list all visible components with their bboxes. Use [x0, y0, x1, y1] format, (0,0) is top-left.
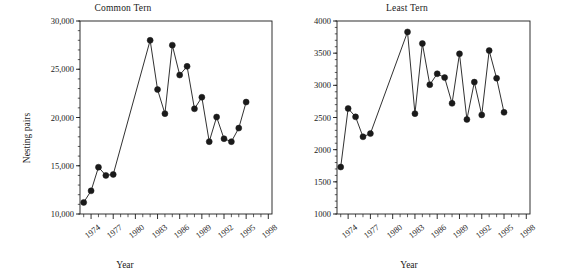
- least-tern-panel: Least Tern Year 100015002000250030003500…: [282, 0, 564, 276]
- y-tick-label: 4000: [314, 16, 331, 26]
- data-point: [338, 164, 344, 170]
- data-point: [345, 105, 351, 111]
- y-tick-label: 2500: [314, 113, 331, 123]
- data-point: [81, 199, 87, 205]
- data-point: [486, 48, 492, 54]
- data-point: [184, 63, 190, 69]
- data-point: [214, 114, 220, 120]
- x-axis-label-year-right: Year: [268, 260, 550, 270]
- data-point: [169, 42, 175, 48]
- data-point: [464, 116, 470, 122]
- data-point: [479, 112, 485, 118]
- data-point: [471, 79, 477, 85]
- data-point: [405, 29, 411, 35]
- data-line: [84, 40, 246, 202]
- data-point: [419, 41, 425, 47]
- data-point: [221, 136, 227, 142]
- y-tick-label: 1000: [314, 209, 331, 219]
- y-tick-label: 1500: [314, 177, 331, 187]
- data-point: [360, 134, 366, 140]
- data-point: [236, 125, 242, 131]
- data-point: [449, 100, 455, 106]
- data-point: [442, 75, 448, 81]
- y-tick-label: 3000: [314, 80, 331, 90]
- data-point: [494, 75, 500, 81]
- data-point: [110, 171, 116, 177]
- data-point: [353, 114, 359, 120]
- data-point: [162, 111, 168, 117]
- data-point: [434, 71, 440, 77]
- data-point: [191, 106, 197, 112]
- data-point: [177, 72, 183, 78]
- data-point: [427, 82, 433, 88]
- data-point: [147, 37, 153, 43]
- y-tick-label: 30,000: [51, 16, 74, 26]
- data-point: [228, 139, 234, 145]
- y-tick-label: 15,000: [51, 161, 74, 171]
- y-tick-label: 2000: [314, 145, 331, 155]
- common-tern-panel: Common Tern Nesting pairs Year 10,00015,…: [0, 0, 282, 276]
- y-tick-label: 20,000: [51, 113, 74, 123]
- data-point: [367, 131, 373, 137]
- two-panel-tern-nesting-figure: Common Tern Nesting pairs Year 10,00015,…: [0, 0, 564, 276]
- data-point: [88, 188, 94, 194]
- x-axis-label-year-left: Year: [0, 260, 266, 270]
- y-tick-label: 3500: [314, 48, 331, 58]
- data-point: [501, 109, 507, 115]
- y-tick-label: 10,000: [51, 209, 74, 219]
- data-point: [456, 51, 462, 57]
- data-point: [412, 111, 418, 117]
- data-point: [206, 139, 212, 145]
- data-line: [341, 32, 504, 167]
- data-point: [95, 164, 101, 170]
- data-point: [243, 99, 249, 105]
- data-point: [103, 172, 109, 178]
- y-tick-label: 25,000: [51, 64, 74, 74]
- data-point: [155, 87, 161, 93]
- data-point: [199, 94, 205, 100]
